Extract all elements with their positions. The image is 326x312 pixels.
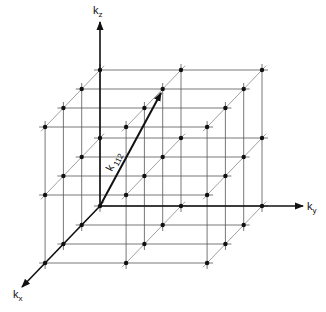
lattice-point [179, 68, 183, 72]
lattice-point [80, 155, 84, 159]
k112-label: k112 [103, 149, 126, 174]
lattice-point [242, 223, 246, 227]
lattice-point [205, 261, 209, 265]
grid-line-x [122, 134, 185, 200]
lattice-point [61, 106, 65, 110]
kx-label: kx [13, 288, 23, 303]
grid-line-x [122, 66, 185, 132]
lattice-point [179, 136, 183, 140]
grid-line-x [122, 202, 185, 268]
lattice-point [80, 87, 84, 91]
grid-line-x [203, 134, 266, 200]
lattice-point [142, 106, 146, 110]
lattice-point [161, 155, 165, 159]
grid-line-x [41, 66, 104, 132]
lattice-point [124, 261, 128, 265]
lattice-point [260, 68, 264, 72]
k112-vector [100, 93, 161, 206]
ky-label: ky [307, 200, 317, 215]
grid-line-x [41, 134, 104, 200]
lattice-point [242, 155, 246, 159]
lattice-point [124, 125, 128, 129]
lattice-point [223, 242, 227, 246]
lattice-point [142, 174, 146, 178]
lattice-point [242, 87, 246, 91]
lattice-point [124, 193, 128, 197]
lattice-point [61, 174, 65, 178]
lattice-point [161, 223, 165, 227]
kx-axis [22, 206, 100, 287]
lattice-point [223, 106, 227, 110]
kz-label: kz [93, 4, 103, 19]
lattice-point [161, 87, 165, 91]
lattice-point [43, 125, 47, 129]
reciprocal-lattice-diagram: kz ky kx k112 [0, 0, 326, 312]
grid-line-x [203, 66, 266, 132]
grid-line-x [203, 202, 266, 268]
lattice-point [205, 125, 209, 129]
lattice-point [260, 136, 264, 140]
lattice-grid [39, 64, 268, 269]
lattice-point [205, 193, 209, 197]
lattice-point [223, 174, 227, 178]
lattice-point [43, 193, 47, 197]
lattice-point [142, 242, 146, 246]
